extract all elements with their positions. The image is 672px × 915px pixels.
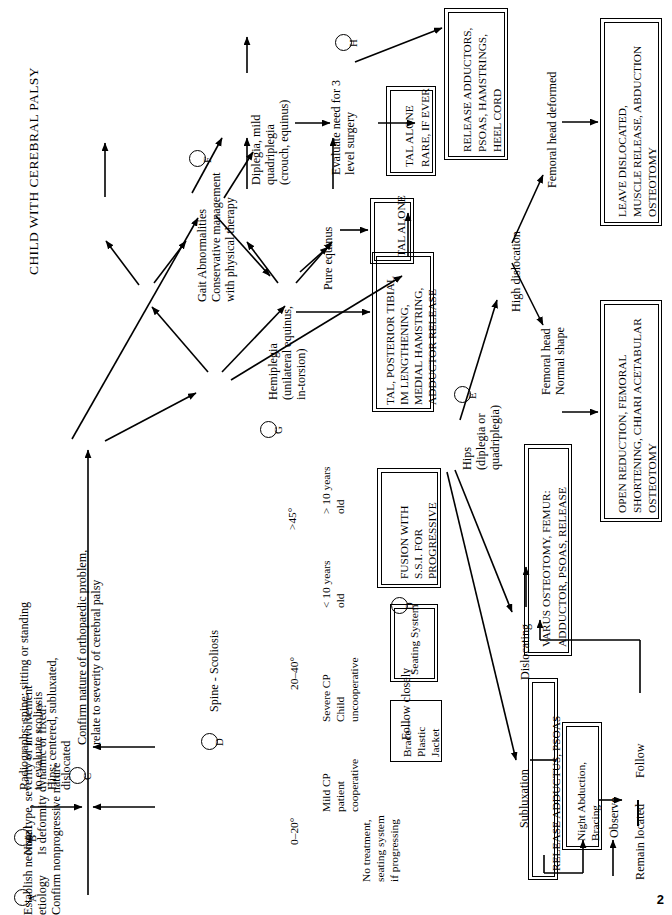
varus-line-1: VARUS OSTEOTOMY, FEMUR: xyxy=(540,490,553,647)
tal-alone-label: TAL ALONE xyxy=(395,195,408,257)
femoral-head-normal-line-2: Normal shape xyxy=(554,327,568,395)
release-adductus-box: RELEASE ADDUCTUS, PSOAS xyxy=(528,678,558,880)
hemiplegia-line-3: in-torsion) xyxy=(295,349,309,400)
remain-located-connector xyxy=(637,800,639,826)
open-reduction-line-1: OPEN REDUCTION, FEMORAL xyxy=(616,354,629,513)
age-under-10-line-1: < 10 years xyxy=(320,560,333,608)
seating-system-box: Seating System xyxy=(390,604,438,682)
hips-line-2: (diplegia or xyxy=(475,413,489,470)
severe-cp-line-2: Child xyxy=(334,697,347,722)
step-marker-c: C xyxy=(69,767,86,784)
hips-line-3: quadriplegia) xyxy=(489,405,503,470)
tal-posterior-line-1: TAL, POSTERIOR TIBIAL xyxy=(384,276,397,405)
tal-rare-line-1: TAL ALONE xyxy=(403,105,416,167)
no-treatment-line-2: seating system xyxy=(374,815,387,882)
brace-line-2: Plastic xyxy=(415,727,428,757)
follow-label: Follow xyxy=(634,743,648,778)
tal-posterior-line-2: IM LENGTHENING, xyxy=(398,304,411,405)
step-marker-f: F xyxy=(189,150,206,167)
hips-line-1: Hips xyxy=(461,447,475,470)
step-marker-a: A xyxy=(14,889,31,906)
hemiplegia-line-2: (unilateral equinus, xyxy=(281,306,295,400)
brace-plastic-jacket-box: Brace— Plastic Jacket xyxy=(390,700,442,762)
tal-alone-rare-box: TAL ALONE RARE, IF EVER xyxy=(386,86,436,176)
no-treatment-line-1: No treatment, xyxy=(360,819,373,882)
observe-label: Observe xyxy=(608,797,622,838)
mild-cp-line-2: patient xyxy=(334,781,347,812)
release-adductors-line-3: HEEL CORD xyxy=(491,89,504,152)
step-marker-d-spine: D xyxy=(201,733,218,750)
pure-equinus-label: Pure equinus xyxy=(322,227,336,290)
open-reduction-box: OPEN REDUCTION, FEMORAL SHORTENING, CHIA… xyxy=(600,300,662,522)
evaluate-line-1: Evaluate need for 3 xyxy=(330,80,344,175)
varus-osteotomy-box: VARUS OSTEOTOMY, FEMUR: ADDUCTOR, PSOAS,… xyxy=(524,444,572,656)
diplegia-line-2: quadriplegia xyxy=(264,124,278,185)
severe-cp-line-3: uncooperative xyxy=(348,657,361,722)
step-marker-b: B xyxy=(14,829,31,846)
step-marker-h: H xyxy=(335,34,352,51)
femoral-head-normal-line-1: Femoral head xyxy=(540,328,554,395)
open-reduction-line-3: OSTEOTOMY xyxy=(646,443,659,513)
femoral-head-deformed-label: Femoral head deformed xyxy=(546,72,560,188)
severe-cp-line-1: Severe CP xyxy=(320,674,333,722)
step-marker-e: E xyxy=(454,386,471,403)
leave-dislocated-line-3: OSTEOTOMY xyxy=(646,147,659,217)
tal-posterior-line-4: ADDUCTOR RELEASE xyxy=(426,289,439,405)
angle-mild-label: 0–20° xyxy=(288,818,301,845)
seating-system-label: Seating System xyxy=(408,604,421,675)
release-adductors-box: RELEASE ADDUCTORS, PSOAS, HAMSTRINGS, HE… xyxy=(444,8,508,160)
step-marker-g: G xyxy=(260,421,277,438)
angle-severe-label: >45° xyxy=(286,508,299,530)
mild-cp-line-1: Mild CP xyxy=(320,773,333,812)
spine-scoliosis-label: Spine - Scoliosis xyxy=(208,630,222,712)
brace-line-1: Brace— xyxy=(401,719,414,757)
night-abduction-line-2: Bracing xyxy=(589,805,602,841)
tal-posterior-tibial-box: TAL, POSTERIOR TIBIAL IM LENGTHENING, ME… xyxy=(372,252,434,412)
brace-line-3: Jacket xyxy=(429,729,442,757)
release-adductors-line-1: RELEASE ADDUCTORS, xyxy=(461,28,474,152)
angle-moderate-label: 20–40° xyxy=(288,657,301,690)
diplegia-line-3: (crouch, equinus) xyxy=(278,100,292,185)
release-adductors-line-2: PSOAS, HAMSTRINGS, xyxy=(476,34,489,152)
page-number: 2 xyxy=(657,892,664,907)
radiographs-line-1: Radiographs: spine: sitting or standing xyxy=(18,602,32,790)
hemiplegia-line-1: Hemiplegia xyxy=(267,343,281,400)
fusion-ssi-line-3: PROGRESSIVE xyxy=(426,502,439,579)
fusion-ssi-line-1: FUSION WITH xyxy=(398,505,411,579)
step-c-line-1: Confirm nature of orthopaedic problem, xyxy=(76,550,90,745)
mild-cp-line-3: cooperative xyxy=(348,759,361,812)
diplegia-line-1: Diplegia, mild xyxy=(250,115,264,185)
fusion-ssi-line-2: S.S.I. FOR xyxy=(412,529,425,579)
gait-heading-line-1: Gait Abnormalities xyxy=(196,209,210,302)
gait-heading-line-2: Conservative management xyxy=(210,172,224,302)
leave-dislocated-line-2: MUSCLE RELEASE, ABDUCTION xyxy=(631,46,644,217)
radiographs-line-3: Hips: centered, subluxated, xyxy=(46,657,60,790)
leave-dislocated-box: LEAVE DISLOCATED, MUSCLE RELEASE, ABDUCT… xyxy=(600,18,662,226)
night-abduction-line-1: Night Abduction, xyxy=(575,762,588,841)
night-abduction-box: Night Abduction, Bracing xyxy=(562,722,602,850)
leave-dislocated-line-1: LEAVE DISLOCATED, xyxy=(616,105,629,217)
age-over-10-line-2: old xyxy=(334,499,347,514)
radiographs-line-2: to evaluate scoliosis xyxy=(32,692,46,790)
tal-posterior-line-3: MEDIAL HAMSTRING, xyxy=(412,288,425,405)
age-over-10-line-1: > 10 years xyxy=(320,466,333,514)
gait-heading-line-3: with physical therapy xyxy=(224,197,238,302)
tal-rare-line-2: RARE, IF EVER xyxy=(419,88,432,167)
evaluate-line-2: level surgery xyxy=(344,112,358,175)
varus-line-2: ADDUCTOR, PSOAS, RELEASE xyxy=(556,487,569,647)
no-treatment-line-3: if progressing xyxy=(388,819,401,882)
open-reduction-line-2: SHORTENING, CHIARI ACETABULAR xyxy=(631,318,644,513)
fusion-ssi-box: FUSION WITH S.S.I. FOR PROGRESSIVE xyxy=(377,468,441,588)
page-title: CHILD WITH CEREBRAL PALSY xyxy=(26,67,41,275)
high-dislocation-label: High dislocation xyxy=(510,231,524,312)
age-under-10-line-2: old xyxy=(334,593,347,608)
step-c-line-2: relate to severity of cerebral palsy xyxy=(90,580,104,745)
